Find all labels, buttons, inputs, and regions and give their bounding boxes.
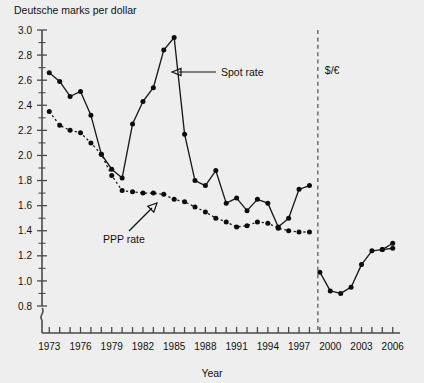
x-axis: 1973197619791982198519881991199419972000… (38, 327, 404, 352)
x-tick-label: 1979 (101, 341, 124, 352)
data-point (203, 183, 208, 188)
data-point (297, 187, 302, 192)
data-point (224, 201, 229, 206)
data-point (47, 70, 52, 75)
data-point (151, 191, 156, 196)
data-point (182, 199, 187, 204)
x-tick-label: 1991 (225, 341, 248, 352)
euro-currency-label: $/€ (325, 64, 340, 76)
y-tick-label: 2.4 (18, 100, 32, 111)
data-point (120, 176, 125, 181)
data-point (286, 216, 291, 221)
y-tick-label: 2.8 (18, 50, 32, 61)
y-tick-label: 3.0 (18, 25, 32, 36)
data-point (265, 221, 270, 226)
data-point (359, 262, 364, 267)
y-axis: 0.81.01.21.41.61.82.02.22.42.62.83.0 (18, 25, 47, 333)
data-point (276, 226, 281, 231)
data-point (172, 35, 177, 40)
ppp-rate-annotation: PPP rate (103, 203, 157, 245)
chart-figure: Deutsche marks per dollar Year 0.81.01.2… (0, 0, 424, 383)
y-tick-label: 1.8 (18, 175, 32, 186)
data-point (161, 192, 166, 197)
spot-rate-label: Spot rate (221, 66, 264, 78)
series-line--era-spot-rate (320, 248, 393, 293)
data-point (161, 48, 166, 53)
y-tick-label: 1.0 (18, 276, 32, 287)
x-tick-label: 1985 (163, 341, 186, 352)
data-point (265, 201, 270, 206)
x-tick-label: 2000 (319, 341, 342, 352)
data-point (255, 219, 260, 224)
data-point (369, 248, 374, 253)
data-point (224, 219, 229, 224)
data-point (182, 132, 187, 137)
x-tick-label: 1997 (288, 341, 311, 352)
data-point (390, 241, 395, 246)
data-point (68, 94, 73, 99)
data-point (234, 196, 239, 201)
data-point (245, 208, 250, 213)
data-point (203, 209, 208, 214)
y-tick-label: 2.0 (18, 150, 32, 161)
data-point (57, 123, 62, 128)
data-point (88, 113, 93, 118)
spot-rate-annotation: Spot rate (172, 66, 264, 78)
data-point (307, 183, 312, 188)
data-point (120, 188, 125, 193)
data-point (286, 228, 291, 233)
data-point (140, 99, 145, 104)
data-point (130, 122, 135, 127)
data-point (297, 229, 302, 234)
data-point (213, 216, 218, 221)
x-tick-label: 2006 (382, 341, 405, 352)
data-point (88, 140, 93, 145)
data-point (349, 285, 354, 290)
data-point (234, 224, 239, 229)
x-tick-label: 1994 (257, 341, 280, 352)
data-point (307, 229, 312, 234)
data-point (255, 197, 260, 202)
x-tick-label: 1973 (38, 341, 61, 352)
data-point (78, 130, 83, 135)
axis-break-symbol (41, 308, 43, 320)
data-point (151, 85, 156, 90)
series-line-ppp-rate (49, 112, 309, 232)
ppp-rate-arrow-line (129, 208, 152, 231)
data-point (390, 246, 395, 251)
y-tick-label: 1.2 (18, 250, 32, 261)
x-tick-label: 1988 (194, 341, 217, 352)
y-tick-label: 1.4 (18, 225, 32, 236)
data-point (57, 79, 62, 84)
data-point (68, 128, 73, 133)
data-point (172, 197, 177, 202)
series-line-spot-rate (49, 38, 309, 227)
data-point (338, 291, 343, 296)
data-point (78, 89, 83, 94)
data-point (140, 191, 145, 196)
data-point (328, 288, 333, 293)
x-tick-label: 2003 (350, 341, 373, 352)
y-tick-label: 2.2 (18, 125, 32, 136)
data-point (192, 204, 197, 209)
data-point (130, 189, 135, 194)
data-point (245, 223, 250, 228)
y-axis-title: Deutsche marks per dollar (14, 4, 137, 16)
x-axis-title: Year (201, 367, 223, 379)
y-tick-label: 1.6 (18, 200, 32, 211)
data-point (47, 109, 52, 114)
chart-canvas: Deutsche marks per dollar Year 0.81.01.2… (0, 0, 424, 383)
x-tick-label: 1976 (69, 341, 92, 352)
data-point (99, 152, 104, 157)
data-point (109, 173, 114, 178)
ppp-rate-label: PPP rate (103, 233, 145, 245)
data-point (192, 178, 197, 183)
x-tick-label: 1982 (132, 341, 155, 352)
data-point (213, 168, 218, 173)
y-tick-label: 2.6 (18, 75, 32, 86)
y-tick-label: 0.8 (18, 301, 32, 312)
data-point (380, 247, 385, 252)
